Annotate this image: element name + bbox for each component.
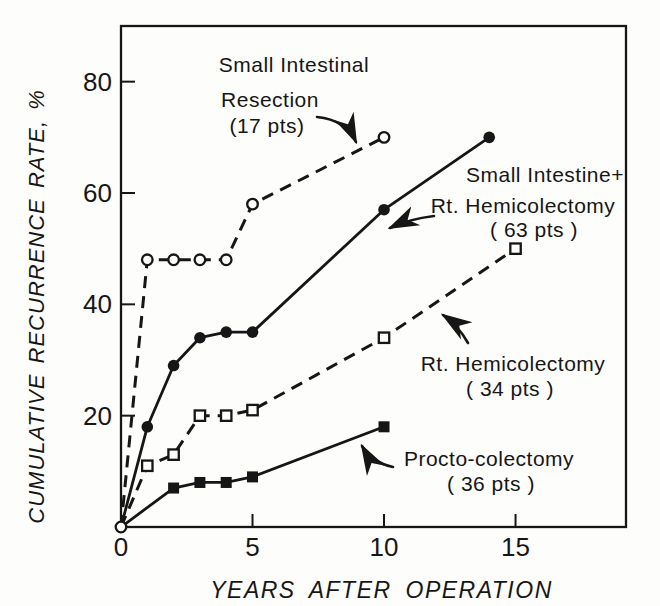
marker-circle-filled bbox=[168, 360, 180, 372]
marker-square-open bbox=[142, 461, 152, 471]
annotation-label: Small Intestinal bbox=[219, 53, 369, 76]
x-tick-label: 10 bbox=[370, 532, 399, 562]
marker-circle-open bbox=[116, 522, 127, 533]
marker-circle-filled bbox=[247, 326, 259, 338]
marker-square-open bbox=[379, 333, 389, 343]
marker-square-open bbox=[195, 410, 205, 420]
y-tick-label: 60 bbox=[83, 178, 112, 208]
marker-square-open bbox=[510, 243, 520, 253]
marker-circle-open bbox=[221, 254, 232, 265]
y-tick-label: 40 bbox=[83, 289, 112, 319]
annotation-arrow bbox=[443, 315, 468, 343]
annotation-small-intestine-rt-hemicolectomy: Small Intestine+Rt. Hemicolectomy( 63 pt… bbox=[390, 163, 624, 241]
annotation-label: Resection bbox=[221, 88, 319, 111]
y-axis-title: CUMULATIVE RECURRENCE RATE, % bbox=[24, 89, 49, 523]
annotation-rt-hemicolectomy: Rt. Hemicolectomy( 34 pts ) bbox=[421, 315, 606, 400]
marker-circle-open bbox=[142, 254, 153, 265]
annotation-label: ( 36 pts ) bbox=[447, 472, 535, 495]
x-axis-title: YEARS AFTER OPERATION bbox=[210, 577, 553, 603]
x-tick-label: 0 bbox=[114, 532, 128, 562]
marker-circle-filled bbox=[378, 204, 390, 216]
marker-circle-open bbox=[379, 132, 390, 143]
annotation-small-intestinal-resection: Small IntestinalResection(17 pts) bbox=[219, 53, 369, 142]
y-tick-label: 80 bbox=[83, 67, 112, 97]
annotation-label: Small Intestine+ bbox=[466, 163, 624, 186]
marker-circle-open bbox=[168, 254, 179, 265]
marker-circle-filled bbox=[483, 132, 495, 144]
marker-square-filled bbox=[168, 483, 179, 494]
marker-square-filled bbox=[247, 471, 258, 482]
annotation-label: ( 63 pts ) bbox=[490, 218, 578, 241]
annotation-arrow bbox=[362, 446, 393, 467]
annotation-label: Rt. Hemicolectomy bbox=[431, 194, 616, 217]
marker-circle-filled bbox=[220, 326, 232, 338]
annotation-label: Rt. Hemicolectomy bbox=[421, 352, 606, 375]
recurrence-rate-figure: 05101520406080YEARS AFTER OPERATIONCUMUL… bbox=[0, 0, 660, 606]
marker-circle-filled bbox=[194, 332, 206, 344]
marker-square-filled bbox=[194, 477, 205, 488]
marker-square-filled bbox=[379, 421, 390, 432]
marker-circle-filled bbox=[142, 421, 154, 433]
y-tick-label: 20 bbox=[83, 401, 112, 431]
marker-circle-open bbox=[195, 254, 206, 265]
annotation-label: ( 34 pts ) bbox=[466, 377, 554, 400]
marker-square-open bbox=[168, 449, 178, 459]
marker-square-open bbox=[221, 410, 231, 420]
x-tick-label: 5 bbox=[245, 532, 259, 562]
annotation-arrow bbox=[317, 117, 356, 142]
marker-circle-open bbox=[247, 199, 258, 210]
marker-square-open bbox=[247, 405, 257, 415]
recurrence-chart: 05101520406080YEARS AFTER OPERATIONCUMUL… bbox=[0, 0, 660, 606]
marker-square-filled bbox=[221, 477, 232, 488]
annotation-arrow bbox=[390, 216, 434, 228]
x-tick-label: 15 bbox=[501, 532, 530, 562]
annotation-label: (17 pts) bbox=[229, 114, 304, 137]
annotation-label: Procto-colectomy bbox=[404, 447, 574, 470]
annotation-procto-colectomy: Procto-colectomy( 36 pts ) bbox=[362, 446, 574, 495]
